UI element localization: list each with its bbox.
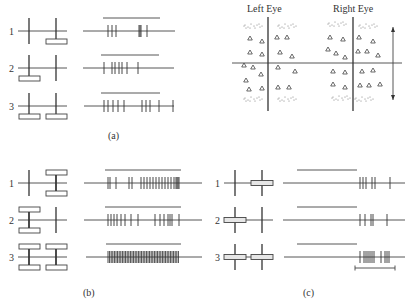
noise-dot (337, 23, 338, 24)
stimulus-bar (46, 114, 67, 119)
row-label: 2 (9, 215, 14, 226)
triangle-icon (278, 50, 283, 54)
stimulus-bar (46, 265, 67, 270)
noise-dot (337, 99, 338, 100)
noise-dot (360, 27, 361, 28)
spike-trains (83, 18, 405, 271)
noise-dot (343, 24, 344, 25)
triangle-icon (371, 39, 376, 43)
noise-dot (284, 96, 285, 97)
panel-label-c: (c) (303, 287, 314, 299)
stimulus-bar (19, 76, 40, 81)
noise-dot (359, 24, 360, 25)
noise-dot (335, 98, 336, 99)
triangle-icon (357, 35, 362, 39)
noise-dot (278, 24, 279, 25)
noise-dot (360, 100, 361, 101)
noise-dot (245, 27, 246, 28)
noise-dot (254, 27, 255, 28)
noise-dot (277, 98, 278, 99)
triangle-icon (260, 39, 265, 43)
noise-dot (292, 23, 293, 24)
triangle-icon (331, 82, 336, 86)
stimulus-bar (19, 228, 40, 233)
noise-dot (358, 99, 359, 100)
triangle-icon (276, 65, 281, 69)
noise-dot (249, 100, 250, 101)
row-label: 2 (9, 63, 14, 74)
triangle-icon (334, 51, 339, 55)
noise-dot (338, 25, 339, 26)
noise-dot (250, 23, 251, 24)
noise-dot (338, 95, 339, 96)
noise-dot (247, 26, 248, 27)
noise-dot (281, 26, 282, 27)
noise-dot (344, 96, 345, 97)
noise-dot (287, 98, 288, 99)
noise-dot (247, 99, 248, 100)
noise-dot (256, 97, 257, 98)
noise-dot (358, 25, 359, 26)
row-label: 1 (9, 26, 14, 37)
stimulus-bar (19, 265, 40, 270)
noise-dot (243, 25, 244, 26)
noise-dot (369, 27, 370, 28)
noise-dot (328, 22, 329, 23)
stimulus-bar (251, 255, 273, 260)
right-eye-label: Right Eye (333, 3, 374, 14)
left-eye-label: Left Eye (247, 3, 282, 14)
noise-dot (258, 23, 259, 24)
noise-dot (281, 99, 282, 100)
stimulus-bar (46, 191, 67, 196)
noise-dot (244, 97, 245, 98)
triangle-icon (365, 49, 370, 53)
noise-dot (249, 27, 250, 28)
row-label: 3 (215, 252, 220, 263)
noise-dot (365, 100, 366, 101)
noise-dot (295, 25, 296, 26)
noise-dot (373, 23, 374, 24)
noise-dot (254, 100, 255, 101)
binocular-receptive-field-figure: 123123123 Left Eye Right Eye (a) (b) (c) (0, 0, 413, 302)
noise-dot (365, 23, 366, 24)
triangle-icon (259, 72, 264, 76)
triangle-icon (343, 85, 348, 89)
stimulus-bar (19, 114, 40, 119)
triangle-icon (260, 86, 265, 90)
triangle-icon (276, 85, 281, 89)
noise-dot (245, 100, 246, 101)
noise-dot (290, 97, 291, 98)
noise-dot (368, 25, 369, 26)
arrow-down-icon (391, 95, 395, 100)
noise-dot (364, 98, 365, 99)
noise-dot (354, 98, 355, 99)
row-label: 1 (9, 178, 14, 189)
noise-dot (253, 25, 254, 26)
noise-dot (331, 97, 332, 98)
stimulus-bar (251, 181, 273, 186)
noise-dot (258, 96, 259, 97)
noise-dot (374, 26, 375, 27)
triangle-icon (275, 35, 280, 39)
noise-dot (331, 24, 332, 25)
noise-dot (287, 25, 288, 26)
stimulus-bar (46, 244, 67, 249)
triangle-icon (287, 85, 292, 89)
triangle-icon (343, 55, 348, 59)
panel-label-a: (a) (108, 130, 119, 142)
noise-dot (250, 96, 251, 97)
noise-dot (361, 96, 362, 97)
row-label: 2 (215, 215, 220, 226)
stimulus-bar (46, 39, 67, 44)
noise-dot (342, 21, 343, 22)
noise-dot (346, 95, 347, 96)
noise-dot (332, 96, 333, 97)
noise-dot (284, 23, 285, 24)
noise-dot (293, 99, 294, 100)
noise-dot (329, 25, 330, 26)
row-label: 1 (215, 178, 220, 189)
stimulus-bar (46, 170, 67, 175)
triangle-icon (247, 87, 252, 91)
noise-dot (259, 99, 260, 100)
noise-dot (261, 25, 262, 26)
